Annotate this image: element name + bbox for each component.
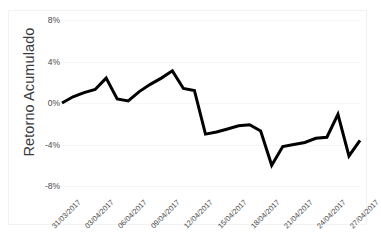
x-axis-tick-label: 03/04/2017 <box>83 198 116 231</box>
x-axis-tick-label: 27/04/2017 <box>348 198 381 231</box>
x-axis-tick-label: 06/04/2017 <box>116 198 149 231</box>
x-axis-tick-label: 12/04/2017 <box>182 198 215 231</box>
x-axis-tick-label: 15/04/2017 <box>216 198 249 231</box>
x-axis-tick-label: 24/04/2017 <box>315 198 348 231</box>
x-axis-tick-label: 18/04/2017 <box>249 198 282 231</box>
x-axis-tick-label: 21/04/2017 <box>282 198 315 231</box>
x-axis-tick-label: 31/03/2017 <box>50 198 83 231</box>
x-axis-tick-label: 09/04/2017 <box>149 198 182 231</box>
